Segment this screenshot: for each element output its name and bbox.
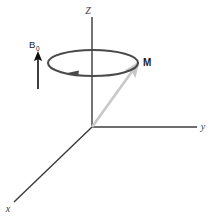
static-field-label-subscript: 0: [36, 45, 40, 52]
x-axis-line: [14, 127, 92, 202]
precession-ellipse-group: [48, 50, 138, 76]
static-field-label-group: B 0: [29, 39, 40, 52]
magnetization-precession-figure: Z y x M B 0: [0, 0, 216, 218]
x-axis-label: x: [5, 203, 11, 214]
precession-ellipse: [48, 50, 138, 76]
y-axis-label: y: [200, 121, 206, 132]
figure-canvas: Z y x M B 0: [0, 0, 216, 218]
z-axis-label: Z: [85, 5, 91, 16]
magnetization-label: M: [143, 57, 151, 68]
static-field-label: B: [29, 39, 35, 50]
